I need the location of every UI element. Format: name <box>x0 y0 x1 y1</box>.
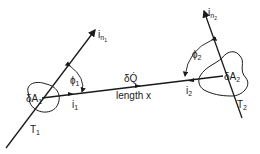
normal-1-label: in1 <box>98 29 107 43</box>
heat-label: δQ̇ <box>124 72 138 84</box>
direction-2-label: i2 <box>186 85 192 97</box>
surface-1-normal-line <box>6 30 95 148</box>
normal-2-label: in2 <box>208 7 217 21</box>
surface-2-label: δA2 <box>224 71 240 83</box>
tangent-1-label: T1 <box>30 124 40 136</box>
length-label: length x <box>116 90 151 101</box>
angle-2-label: ϕ2 <box>192 49 202 61</box>
angle-1-label: ϕ1 <box>70 75 80 87</box>
surface-1-label: δA1 <box>26 93 42 105</box>
tangent-2-label: T2 <box>237 99 247 111</box>
radiation-exchange-diagram: δA1 in1 ϕ1 i1 T1 δQ̇ length x δA2 in2 ϕ2… <box>0 0 260 154</box>
heat-arrow-icon <box>135 84 141 88</box>
direction-1-arrow-icon <box>68 92 74 96</box>
direction-1-label: i1 <box>72 99 78 111</box>
